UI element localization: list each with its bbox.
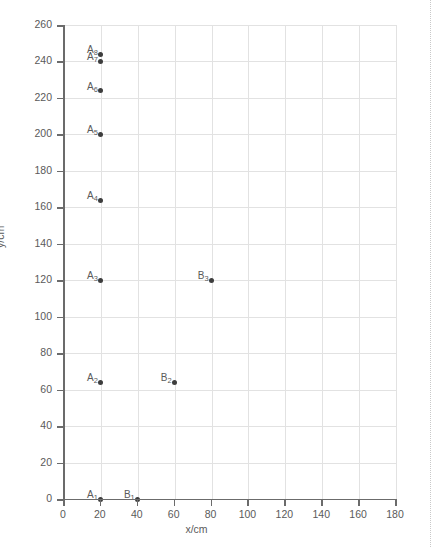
y-axis-tick: [57, 426, 64, 428]
y-axis-tick-label: 0: [12, 492, 52, 504]
gridline-vertical: [322, 25, 323, 499]
y-axis-tick-label: 60: [12, 383, 52, 395]
gridline-horizontal: [64, 390, 396, 391]
gridline-vertical: [138, 25, 139, 499]
y-axis-tick: [57, 317, 64, 319]
x-axis-title-label: x/cm: [185, 523, 207, 535]
data-point-label: B2: [161, 372, 173, 383]
gridline-vertical: [359, 25, 360, 499]
x-axis-tick-label: 80: [191, 508, 231, 520]
x-axis-tick-label: 100: [227, 508, 267, 520]
gridline-vertical: [101, 25, 102, 499]
x-axis-tick-label: 20: [80, 508, 120, 520]
x-axis-tick-label: 140: [301, 508, 341, 520]
gridline-horizontal: [64, 280, 396, 281]
data-point-label: B3: [198, 270, 210, 281]
gridline-vertical: [396, 25, 397, 499]
data-point-label: A3: [87, 270, 99, 281]
data-point: [98, 88, 103, 93]
data-point-label: A4: [87, 190, 99, 201]
gridline-horizontal: [64, 244, 396, 245]
y-axis-tick-label: 100: [12, 310, 52, 322]
x-axis-tick: [100, 499, 102, 506]
x-axis-title: x/cm: [0, 523, 435, 535]
y-axis-tick: [57, 171, 64, 173]
y-axis-tick: [57, 280, 64, 282]
page-edge-dotted-rule: [430, 0, 431, 547]
y-axis-tick: [57, 207, 64, 209]
y-axis-tick: [57, 244, 64, 246]
gridline-vertical: [285, 25, 286, 499]
y-axis-tick-label: 220: [12, 91, 52, 103]
y-axis-tick-label: 200: [12, 127, 52, 139]
x-axis-tick: [137, 499, 139, 506]
data-point: [98, 132, 103, 137]
x-axis-tick-label: 40: [117, 508, 157, 520]
data-point-label: A5: [87, 124, 99, 135]
x-axis-tick: [211, 499, 213, 506]
gridline-horizontal: [64, 25, 396, 26]
x-axis-tick: [321, 499, 323, 506]
x-axis-tick-label: 160: [338, 508, 378, 520]
y-axis-tick: [57, 134, 64, 136]
y-axis-tick: [57, 25, 64, 27]
data-point: [98, 380, 103, 385]
y-axis-title: y/cm: [0, 226, 6, 248]
y-axis-tick-label: 120: [12, 273, 52, 285]
data-point: [98, 198, 103, 203]
data-point: [172, 380, 177, 385]
x-axis-tick-label: 180: [375, 508, 415, 520]
gridline-horizontal: [64, 61, 396, 62]
gridline-horizontal: [64, 426, 396, 427]
plot-area: A1A2A3A4A5A6A7A8B1B2B3: [64, 25, 396, 499]
gridline-horizontal: [64, 317, 396, 318]
y-axis-tick: [57, 390, 64, 392]
scatter-plot-figure: A1A2A3A4A5A6A7A8B1B2B3 02040608010012014…: [0, 0, 435, 547]
x-axis-tick: [63, 499, 65, 506]
x-axis-tick-label: 120: [264, 508, 304, 520]
y-axis-tick-label: 160: [12, 200, 52, 212]
y-axis-tick: [57, 61, 64, 63]
data-point: [98, 52, 103, 57]
y-axis-tick: [57, 353, 64, 355]
y-axis-tick-label: 140: [12, 237, 52, 249]
gridline-vertical: [175, 25, 176, 499]
data-point: [209, 278, 214, 283]
y-axis-tick: [57, 98, 64, 100]
data-point-label: A2: [87, 372, 99, 383]
gridline-vertical: [212, 25, 213, 499]
y-axis-tick-label: 240: [12, 54, 52, 66]
gridline-horizontal: [64, 134, 396, 135]
gridline-horizontal: [64, 98, 396, 99]
x-axis-line: [63, 499, 396, 501]
y-axis-tick: [57, 463, 64, 465]
x-axis-tick-label: 60: [154, 508, 194, 520]
gridline-horizontal: [64, 171, 396, 172]
data-point-label: A6: [87, 81, 99, 92]
x-axis-tick: [395, 499, 397, 506]
x-axis-tick: [174, 499, 176, 506]
y-axis-tick-label: 80: [12, 346, 52, 358]
gridline-horizontal: [64, 207, 396, 208]
gridline-horizontal: [64, 353, 396, 354]
data-point-label: A8: [87, 44, 99, 55]
y-axis-tick-label: 40: [12, 419, 52, 431]
x-axis-tick: [358, 499, 360, 506]
y-axis-tick-label: 20: [12, 456, 52, 468]
gridline-vertical: [248, 25, 249, 499]
y-axis-tick-label: 180: [12, 164, 52, 176]
x-axis-tick-label: 0: [43, 508, 83, 520]
y-axis-tick-label: 260: [12, 18, 52, 30]
x-axis-tick: [284, 499, 286, 506]
data-point: [98, 278, 103, 283]
x-axis-tick: [247, 499, 249, 506]
data-point: [98, 59, 103, 64]
y-axis-line: [63, 25, 65, 500]
gridline-horizontal: [64, 463, 396, 464]
